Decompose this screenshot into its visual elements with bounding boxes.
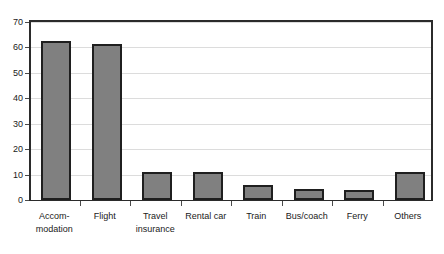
y-axis-tick-label: 50 [1, 69, 23, 78]
x-axis-tick-mark [282, 201, 283, 206]
y-axis-tick-mark [25, 200, 29, 201]
category-label-line-1: Bus/coach [286, 211, 328, 221]
category-label-line-2: insurance [130, 223, 181, 236]
bar[interactable] [395, 172, 425, 200]
x-axis-category-label: Accom-modation [29, 210, 80, 236]
category-label-line-1: Ferry [347, 211, 368, 221]
x-axis-tick-mark [80, 201, 81, 206]
y-axis-tick-mark [25, 73, 29, 74]
y-axis-tick-label: 0 [1, 196, 23, 205]
category-label-line-1: Rental car [185, 211, 226, 221]
plot-area [29, 20, 433, 201]
x-axis-tick-mark [332, 201, 333, 206]
bar[interactable] [142, 172, 172, 200]
bar[interactable] [243, 185, 273, 200]
bar-slot [385, 22, 436, 200]
x-axis-tick-mark [383, 201, 384, 206]
bar-slot [183, 22, 234, 200]
y-axis-tick-label: 20 [1, 145, 23, 154]
bar[interactable] [193, 172, 223, 200]
y-axis-tick-mark [25, 22, 29, 23]
x-axis-category-label: Rental car [181, 210, 232, 223]
y-axis-tick-label: 60 [1, 43, 23, 52]
x-axis-category-label: Flight [80, 210, 131, 223]
x-axis-category-label: Ferry [332, 210, 383, 223]
bar-slot [82, 22, 133, 200]
x-axis-tick-mark [130, 201, 131, 206]
category-label-line-1: Others [394, 211, 421, 221]
x-axis-tick-mark [181, 201, 182, 206]
y-axis-tick-mark [25, 175, 29, 176]
bar[interactable] [294, 189, 324, 200]
y-axis-tick-mark [25, 124, 29, 125]
bar[interactable] [92, 44, 122, 200]
category-label-line-1: Travel [143, 211, 168, 221]
x-axis-category-label: Train [231, 210, 282, 223]
y-axis-tick-mark [25, 149, 29, 150]
category-label-line-2: modation [29, 223, 80, 236]
bar-slot [284, 22, 335, 200]
x-axis-category-label: Others [383, 210, 434, 223]
bar-slot [334, 22, 385, 200]
y-axis-tick-label: 30 [1, 120, 23, 129]
bar-slot [233, 22, 284, 200]
bar-series [31, 22, 431, 200]
y-axis-tick-mark [25, 47, 29, 48]
y-axis-tick-label: 10 [1, 171, 23, 180]
x-axis-category-label: Travelinsurance [130, 210, 181, 236]
category-label-line-1: Accom- [39, 211, 70, 221]
bar[interactable] [344, 190, 374, 200]
y-axis-tick-label: 40 [1, 94, 23, 103]
bar-slot [132, 22, 183, 200]
bar-slot [31, 22, 82, 200]
bar-chart: 010203040506070 Accom-modationFlightTrav… [0, 0, 444, 254]
category-label-line-1: Train [246, 211, 266, 221]
x-axis-tick-mark [231, 201, 232, 206]
x-axis-category-label: Bus/coach [282, 210, 333, 223]
category-label-line-1: Flight [94, 211, 116, 221]
y-axis-tick-label: 70 [1, 18, 23, 27]
y-axis-tick-mark [25, 98, 29, 99]
bar[interactable] [41, 41, 71, 200]
